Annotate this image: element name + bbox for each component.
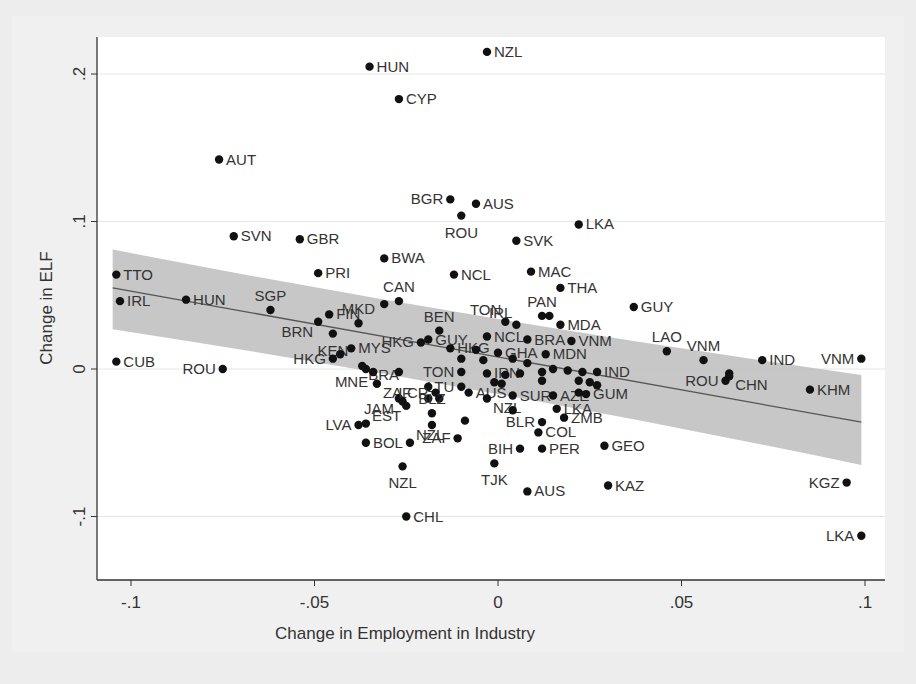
data-point bbox=[549, 391, 557, 399]
data-point bbox=[329, 354, 337, 362]
data-point bbox=[483, 394, 491, 402]
point-label: BEN bbox=[424, 308, 455, 325]
point-label: BLZ bbox=[418, 390, 446, 407]
data-point bbox=[457, 368, 465, 376]
point-label: KGZ bbox=[809, 474, 840, 491]
data-point bbox=[483, 369, 491, 377]
point-label: PAN bbox=[527, 293, 557, 310]
data-point bbox=[806, 385, 814, 393]
data-point bbox=[575, 220, 583, 228]
x-tick-label: -.1 bbox=[121, 593, 141, 612]
point-label: BRN bbox=[281, 323, 313, 340]
data-point bbox=[725, 372, 733, 380]
data-point bbox=[556, 321, 564, 329]
point-label: THA bbox=[567, 279, 597, 296]
data-point bbox=[314, 318, 322, 326]
data-point bbox=[582, 390, 590, 398]
point-label: NCL bbox=[461, 266, 491, 283]
point-label: LKA bbox=[826, 527, 854, 544]
point-label: AUS bbox=[483, 195, 514, 212]
point-label: TJK bbox=[481, 471, 508, 488]
data-point bbox=[380, 254, 388, 262]
data-point bbox=[215, 155, 223, 163]
data-point bbox=[549, 365, 557, 373]
data-point bbox=[538, 368, 546, 376]
point-label: GEO bbox=[611, 437, 644, 454]
data-point bbox=[567, 337, 575, 345]
y-axis-title: Change in ELF bbox=[37, 251, 56, 364]
data-point bbox=[575, 388, 583, 396]
point-label: TTO bbox=[123, 266, 153, 283]
data-point bbox=[523, 335, 531, 343]
point-label: LAO bbox=[652, 328, 682, 345]
data-point bbox=[446, 344, 454, 352]
data-point bbox=[336, 350, 344, 358]
data-point bbox=[501, 318, 509, 326]
point-label: HUN bbox=[377, 58, 410, 75]
point-label: KHM bbox=[817, 381, 850, 398]
data-point bbox=[538, 312, 546, 320]
x-tick-label: -.05 bbox=[300, 593, 329, 612]
data-point bbox=[538, 444, 546, 452]
point-label: CAN bbox=[383, 278, 415, 295]
scatter-plot: -.1-.050.05.1-.10.1.2 NZLHUNCYPAUTBGRAUS… bbox=[12, 16, 904, 652]
data-point bbox=[362, 439, 370, 447]
point-label: AUS bbox=[534, 482, 565, 499]
point-label: CYP bbox=[406, 90, 437, 107]
data-point bbox=[630, 303, 638, 311]
data-point bbox=[329, 329, 337, 337]
data-point bbox=[483, 48, 491, 56]
point-label: BLR bbox=[506, 413, 535, 430]
data-point bbox=[446, 195, 454, 203]
data-point bbox=[380, 300, 388, 308]
data-point bbox=[373, 380, 381, 388]
data-point bbox=[369, 368, 377, 376]
y-tick-label: -.1 bbox=[70, 507, 89, 527]
data-point bbox=[296, 235, 304, 243]
point-label: PRI bbox=[325, 264, 350, 281]
data-point bbox=[417, 338, 425, 346]
data-point bbox=[564, 366, 572, 374]
data-point bbox=[575, 377, 583, 385]
data-point bbox=[578, 368, 586, 376]
point-label: GUY bbox=[641, 298, 674, 315]
x-tick-label: 0 bbox=[493, 593, 502, 612]
point-label: ROU bbox=[445, 224, 478, 241]
data-point bbox=[490, 459, 498, 467]
point-label: SUR bbox=[520, 387, 552, 404]
data-point bbox=[314, 269, 322, 277]
data-point bbox=[347, 344, 355, 352]
data-point bbox=[402, 512, 410, 520]
point-label: BWA bbox=[391, 249, 425, 266]
point-label: VNM bbox=[687, 337, 720, 354]
data-point bbox=[450, 270, 458, 278]
point-label: MNE bbox=[335, 373, 368, 390]
data-point bbox=[406, 439, 414, 447]
data-point bbox=[523, 487, 531, 495]
data-point bbox=[857, 531, 865, 539]
data-point bbox=[593, 368, 601, 376]
point-label: LVA bbox=[325, 416, 351, 433]
point-label: SVN bbox=[241, 227, 272, 244]
data-point bbox=[545, 312, 553, 320]
data-point bbox=[508, 354, 516, 362]
point-label: ZAF bbox=[422, 429, 450, 446]
data-point bbox=[362, 419, 370, 427]
data-point bbox=[424, 335, 432, 343]
data-point bbox=[512, 236, 520, 244]
point-label: GBR bbox=[307, 230, 340, 247]
point-label: IND bbox=[769, 351, 795, 368]
data-point bbox=[857, 354, 865, 362]
point-label: BOL bbox=[373, 434, 403, 451]
point-label: AUT bbox=[226, 151, 256, 168]
data-point bbox=[538, 377, 546, 385]
point-label: NZL bbox=[388, 474, 416, 491]
data-point bbox=[542, 350, 550, 358]
point-label: EST bbox=[372, 407, 401, 424]
data-point bbox=[494, 349, 502, 357]
point-label: MDN bbox=[553, 345, 587, 362]
y-tick-label: 0 bbox=[70, 364, 89, 373]
data-point bbox=[472, 200, 480, 208]
point-label: HUN bbox=[193, 291, 226, 308]
data-point bbox=[428, 409, 436, 417]
